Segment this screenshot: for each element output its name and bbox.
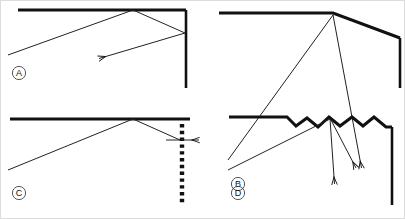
panel-label-d-text: D <box>235 188 242 198</box>
figure-border <box>1 1 405 219</box>
physics-reflection-figure: A B C <box>0 0 405 219</box>
panel-label-c-text: C <box>16 188 23 198</box>
panel-label-a-text: A <box>16 68 22 78</box>
figure-canvas: A B C <box>0 0 405 219</box>
